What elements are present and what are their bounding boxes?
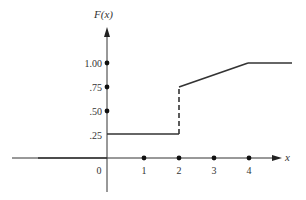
y-tick-50: .50 [90,106,103,117]
x-tick-2: 2 [177,165,182,176]
x-dot-2 [177,156,182,161]
x-tick-1: 1 [142,165,147,176]
y-axis-label: F(x) [93,8,113,21]
origin-label: 0 [97,165,102,176]
segment-rise [179,63,248,87]
x-dot-4 [247,156,252,161]
x-axis-arrow-icon [272,155,282,161]
x-dot-1 [142,156,147,161]
x-tick-4: 4 [247,165,252,176]
x-dot-3 [212,156,217,161]
y-tick-25: .25 [90,130,103,141]
y-axis-arrow-icon [104,27,110,37]
y-dot-75 [105,85,110,90]
y-tick-75: .75 [90,82,103,93]
cdf-chart: F(x) x 1.00 .75 .50 .25 0 1 2 3 4 [0,0,306,200]
y-tick-100: 1.00 [85,58,103,69]
y-dot-100 [105,61,110,66]
y-dot-50 [105,109,110,114]
x-axis-label: x [284,151,290,163]
x-tick-3: 3 [212,165,217,176]
